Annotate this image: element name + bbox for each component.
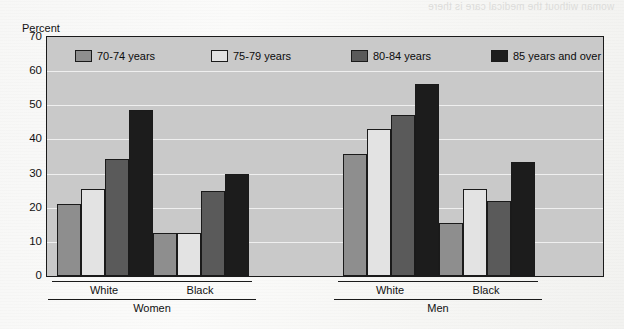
x-axis-sex-label: Women bbox=[133, 302, 171, 314]
bar-group bbox=[343, 37, 439, 276]
bar bbox=[177, 233, 201, 276]
bar bbox=[343, 154, 367, 276]
bar bbox=[511, 162, 535, 276]
x-axis-race-label: White bbox=[376, 284, 404, 296]
bar bbox=[153, 233, 177, 276]
bar bbox=[57, 204, 81, 276]
bar bbox=[391, 115, 415, 276]
y-axis-tick: 20 bbox=[6, 201, 42, 213]
scanned-page: woman without the medical care is there … bbox=[0, 0, 624, 329]
race-bracket bbox=[338, 281, 442, 282]
x-axis-sex-label: Men bbox=[427, 302, 448, 314]
bar bbox=[105, 159, 129, 276]
bar bbox=[487, 201, 511, 276]
x-axis-race-label: Black bbox=[187, 284, 214, 296]
y-axis-tick: 70 bbox=[6, 30, 42, 42]
bar-group bbox=[57, 37, 153, 276]
sex-bracket bbox=[334, 299, 542, 300]
bar bbox=[81, 189, 105, 276]
bar bbox=[439, 223, 463, 276]
y-axis-tick: 60 bbox=[6, 64, 42, 76]
y-axis-tick: 0 bbox=[6, 269, 42, 281]
bar bbox=[201, 191, 225, 276]
y-axis-tick: 10 bbox=[6, 235, 42, 247]
bar bbox=[367, 129, 391, 276]
x-axis-race-label: White bbox=[90, 284, 118, 296]
bar bbox=[129, 110, 153, 276]
plot-area: 70-74 years75-79 years80-84 years85 year… bbox=[46, 36, 604, 277]
y-axis-tick: 30 bbox=[6, 167, 42, 179]
race-bracket bbox=[148, 281, 252, 282]
bar bbox=[463, 189, 487, 276]
y-axis-tick: 40 bbox=[6, 132, 42, 144]
bar-group bbox=[439, 37, 535, 276]
race-bracket bbox=[52, 281, 156, 282]
sex-bracket bbox=[48, 299, 256, 300]
y-axis-tick: 50 bbox=[6, 98, 42, 110]
bar bbox=[225, 174, 249, 276]
bar bbox=[415, 84, 439, 276]
bar-chart: Percent 010203040506070 70-74 years75-79… bbox=[0, 0, 624, 329]
bar-group bbox=[153, 37, 249, 276]
race-bracket bbox=[434, 281, 538, 282]
x-axis-race-label: Black bbox=[473, 284, 500, 296]
